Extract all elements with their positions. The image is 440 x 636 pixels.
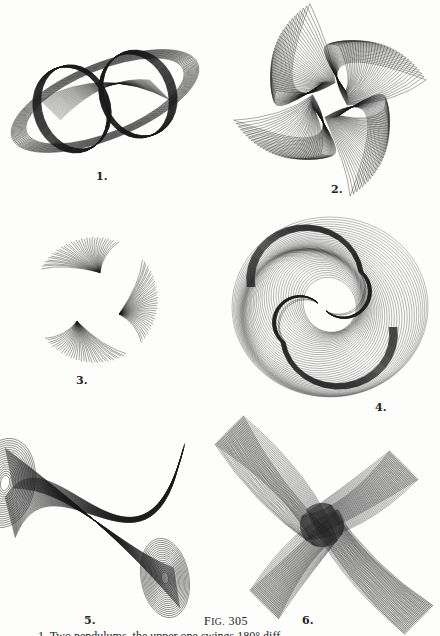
figure-caption-smallcaps: IG. <box>211 617 225 627</box>
figure-5-harmonograph <box>0 428 192 620</box>
figure-5-label: 5. <box>84 614 95 627</box>
figure-1-drawing <box>0 45 210 160</box>
book-page: 1. 2. 3. 4. 5. 6. FIG. 305 1. T <box>0 0 440 636</box>
figure-2-label: 2. <box>331 183 342 196</box>
figure-caption: FIG. 305 <box>204 614 248 629</box>
body-text-clipped: 1. Two pendulums, the upper one swings 1… <box>38 629 289 636</box>
figure-1-label: 1. <box>96 170 107 183</box>
figure-3-drawing <box>0 225 180 370</box>
figure-4-drawing <box>212 205 432 410</box>
figure-5-drawing <box>0 428 192 620</box>
figure-4-label: 4. <box>375 401 386 414</box>
figure-caption-number: 305 <box>229 614 249 628</box>
figure-2-harmonograph <box>230 5 430 185</box>
figure-4-harmonograph <box>212 205 432 410</box>
figure-2-drawing <box>230 5 430 185</box>
figure-6-harmonograph <box>204 425 438 625</box>
figure-6-label: 6. <box>302 614 313 627</box>
figure-3-label: 3. <box>76 374 87 387</box>
figure-3-harmonograph <box>0 225 180 370</box>
figure-6-drawing <box>204 425 438 625</box>
figure-1-harmonograph <box>0 45 210 160</box>
